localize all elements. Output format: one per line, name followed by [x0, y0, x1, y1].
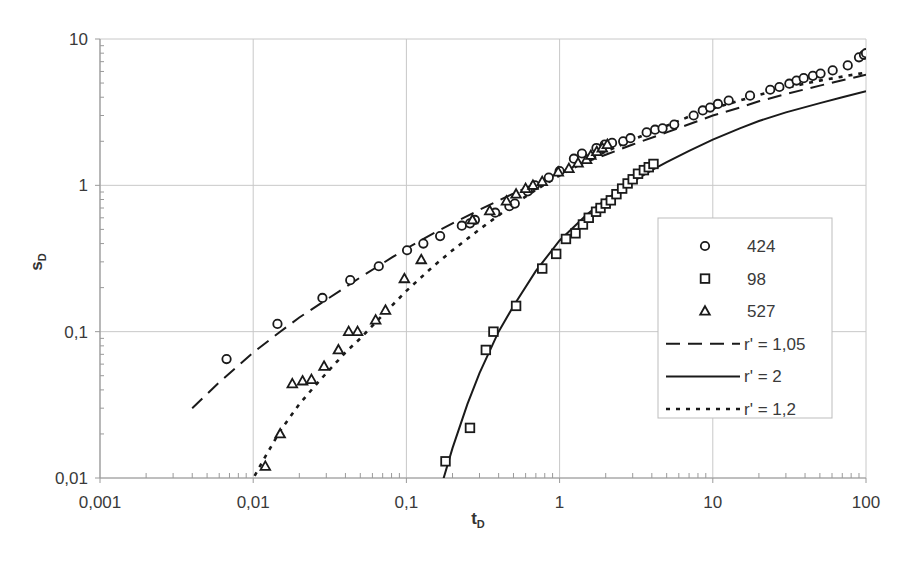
legend-box: [658, 218, 832, 418]
y-tick-labels: 0,010,1110: [55, 30, 88, 488]
y-tick-label: 0,1: [64, 323, 88, 342]
legend: 42498527r' = 1,05r' = 2r' = 1,2: [658, 218, 832, 419]
y-tick-label: 1: [79, 176, 88, 195]
data-point-circle: [828, 66, 836, 74]
data-point-circle: [862, 49, 870, 57]
data-point-circle: [419, 239, 427, 247]
data-point-circle: [844, 61, 852, 69]
legend-label: r' = 1,05: [744, 335, 805, 354]
legend-label: 424: [747, 237, 775, 256]
y-tick-label: 10: [69, 30, 88, 49]
data-point-square: [466, 424, 475, 433]
x-tick-label: 10: [703, 493, 722, 512]
x-tick-label: 0,001: [79, 493, 122, 512]
circle-icon: [701, 242, 709, 250]
data-point-circle: [403, 246, 411, 254]
x-tick-label: 100: [852, 493, 880, 512]
data-point-square: [562, 235, 571, 244]
data-point-circle: [375, 262, 383, 270]
data-point-circle: [775, 83, 783, 91]
data-point-square: [571, 229, 580, 238]
x-tick-label: 0,1: [395, 493, 419, 512]
data-point-circle: [318, 294, 326, 302]
legend-label: r' = 2: [744, 367, 782, 386]
data-point-square: [552, 250, 561, 259]
data-point-square: [489, 327, 498, 336]
data-point-circle: [670, 120, 678, 128]
data-point-square: [649, 160, 658, 169]
x-tick-labels: 0,0010,010,1110100: [79, 493, 880, 512]
data-point-square: [538, 264, 547, 273]
data-point-circle: [725, 96, 733, 104]
data-point-circle: [766, 86, 774, 94]
data-point-square: [441, 457, 450, 466]
x-tick-label: 0,01: [237, 493, 270, 512]
square-icon: [701, 274, 710, 283]
data-point-circle: [816, 69, 824, 77]
data-point-circle: [346, 276, 354, 284]
data-point-circle: [746, 91, 754, 99]
legend-label: r' = 1,2: [744, 400, 796, 419]
data-point-circle: [273, 320, 281, 328]
data-point-circle: [511, 199, 519, 207]
data-point-circle: [689, 111, 697, 119]
y-axis-title: sD: [27, 253, 48, 270]
data-point-circle: [658, 124, 666, 132]
legend-label: 527: [747, 302, 775, 321]
data-point-circle: [545, 173, 553, 181]
data-point-circle: [642, 128, 650, 136]
x-tick-label: 1: [555, 493, 564, 512]
y-tick-label: 0,01: [55, 469, 88, 488]
data-point-circle: [436, 232, 444, 240]
data-point-circle: [799, 74, 807, 82]
data-point-circle: [714, 100, 722, 108]
data-point-square: [512, 302, 521, 311]
data-point-square: [482, 346, 491, 355]
data-point-circle: [458, 221, 466, 229]
data-point-circle: [222, 355, 230, 363]
x-axis-title: tD: [471, 509, 485, 530]
legend-label: 98: [747, 270, 766, 289]
chart: 0,0010,010,1110100 0,010,1110 tD sD 4249…: [0, 0, 909, 564]
data-point-circle: [626, 134, 634, 142]
